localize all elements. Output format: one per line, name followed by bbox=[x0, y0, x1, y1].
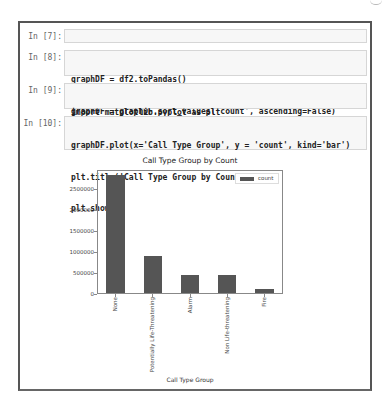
code-input[interactable]: df2 = df.groupBy('Call Type Group').coun… bbox=[64, 29, 367, 43]
code-input[interactable]: import matplotlib.pyplot as plt %matplot… bbox=[64, 83, 367, 109]
code-input[interactable]: graphDF.plot(x='Call Type Group', y = 'c… bbox=[64, 116, 367, 150]
code-line: plt.title('Call Type Group by Count') bbox=[71, 173, 360, 184]
page-corner-mark bbox=[370, 0, 382, 5]
cell-prompt: In [10]: bbox=[14, 119, 62, 128]
code-line: plt.show() bbox=[71, 204, 360, 215]
cell-prompt: In [8]: bbox=[20, 53, 62, 62]
notebook-frame: In [7]: df2 = df.groupBy('Call Type Grou… bbox=[18, 21, 372, 391]
cell-prompt: In [9]: bbox=[20, 86, 62, 95]
cell-prompt: In [7]: bbox=[20, 32, 62, 41]
code-line: graphDF.plot(x='Call Type Group', y = 'c… bbox=[71, 141, 360, 152]
code-input[interactable]: graphDF = df2.toPandas() graphDF = graph… bbox=[64, 50, 367, 76]
